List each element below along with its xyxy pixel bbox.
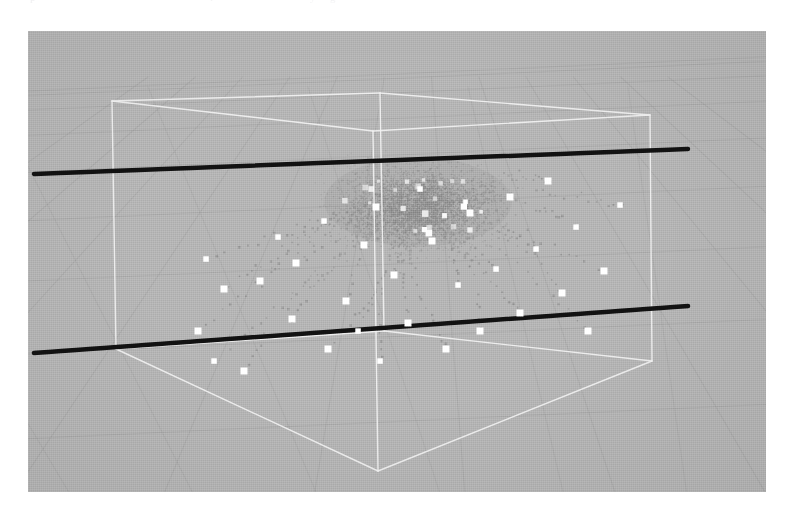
clipped-text-fragment: p <box>30 0 36 3</box>
clipped-header-text: piyg <box>0 0 791 12</box>
clipped-text-fragment: i <box>210 0 213 3</box>
clipped-text-fragment: y <box>310 0 316 3</box>
clipped-text-fragment: g <box>330 0 336 3</box>
scatter-plot-canvas <box>28 31 766 492</box>
figure-container <box>28 31 766 492</box>
